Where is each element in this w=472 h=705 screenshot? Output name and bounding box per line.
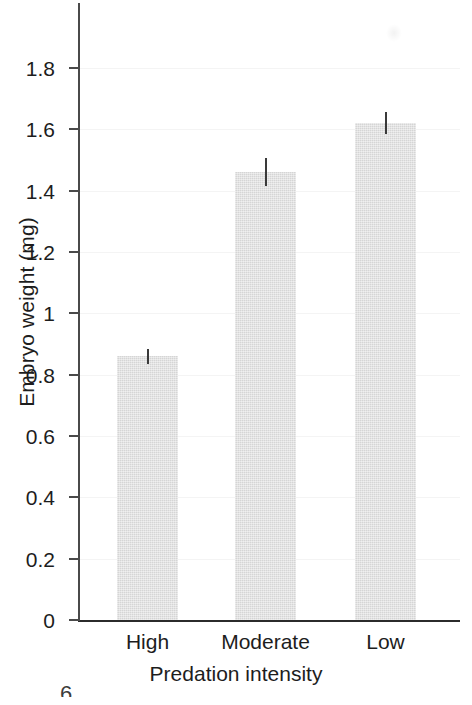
y-axis-tick-label: 1	[43, 303, 55, 324]
y-axis-tick-label: 1.2	[26, 242, 55, 263]
y-axis-tick-label: 1.6	[26, 119, 55, 140]
error-bar	[385, 112, 387, 133]
x-axis-tick-label: Low	[366, 631, 405, 652]
y-axis-tick-mark: 1	[69, 312, 80, 314]
chart-figure: Embryo weight (mg) 00.20.40.60.811.21.41…	[0, 0, 472, 705]
y-axis-tick-label: 0	[43, 610, 55, 631]
y-axis-tick-mark: 0.2	[69, 558, 80, 560]
y-axis-tick-mark: 1.4	[69, 190, 80, 192]
y-axis-tick-label: 0.6	[26, 426, 55, 447]
y-axis-tick-label: 1.4	[26, 180, 55, 201]
x-axis-tick-label: High	[126, 631, 169, 652]
x-axis-line	[78, 620, 460, 622]
y-axis-tick-mark: 0.6	[69, 435, 80, 437]
error-bar	[147, 349, 149, 364]
plot-area: 00.20.40.60.811.21.41.61.8 HighModerateL…	[78, 3, 460, 622]
bar	[235, 172, 296, 620]
y-axis-tick-label: 1.8	[26, 58, 55, 79]
y-axis-tick-mark: 0.4	[69, 496, 80, 498]
y-axis-tick-mark: 1.2	[69, 251, 80, 253]
error-bar	[265, 158, 267, 186]
y-axis-title: Embryo weight (mg)	[15, 167, 39, 457]
bar	[117, 356, 178, 620]
y-axis-tick-mark: 0	[69, 619, 80, 621]
y-axis-tick-label: 0.8	[26, 364, 55, 385]
y-axis-tick-label: 0.4	[26, 487, 55, 508]
bar	[355, 123, 416, 620]
y-axis-tick-mark: 1.6	[69, 128, 80, 130]
y-axis-tick-mark: 1.8	[69, 67, 80, 69]
y-axis-tick-mark: 0.8	[69, 374, 80, 376]
x-axis-tick-label: Moderate	[221, 631, 310, 652]
y-axis-tick-label: 0.2	[26, 548, 55, 569]
gridline	[80, 68, 460, 69]
page-corner-mark: 6	[60, 681, 72, 697]
